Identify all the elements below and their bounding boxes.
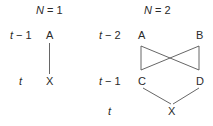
edge-c-x xyxy=(143,88,171,104)
row-label-t-minus-2: t − 2 xyxy=(99,29,121,41)
row-label-t-minus-1-right: t − 1 xyxy=(99,75,121,87)
row-label-t-left: t xyxy=(19,75,22,87)
node-x-left: X xyxy=(46,75,53,87)
row-label-t-right: t xyxy=(108,105,111,117)
row-label-t-minus-1-left: t − 1 xyxy=(10,29,32,41)
panel-title-n2: N = 2 xyxy=(144,4,171,16)
edge-d-x xyxy=(173,88,199,104)
edges-layer xyxy=(0,0,213,126)
node-a-right: A xyxy=(138,29,145,41)
row-var: t xyxy=(108,105,111,117)
node-c-right: C xyxy=(138,75,146,87)
node-d-right: D xyxy=(196,75,204,87)
title-var: N xyxy=(144,4,152,16)
node-b-right: B xyxy=(196,29,203,41)
title-rest: = 2 xyxy=(152,4,171,16)
title-rest: = 1 xyxy=(44,4,63,16)
row-rest: − 1 xyxy=(102,75,121,87)
node-a-left: A xyxy=(46,29,53,41)
panel-title-n1: N = 1 xyxy=(36,4,63,16)
row-rest: − 2 xyxy=(102,29,121,41)
row-rest: − 1 xyxy=(13,29,32,41)
row-var: t xyxy=(19,75,22,87)
node-x-right: X xyxy=(168,105,175,117)
title-var: N xyxy=(36,4,44,16)
